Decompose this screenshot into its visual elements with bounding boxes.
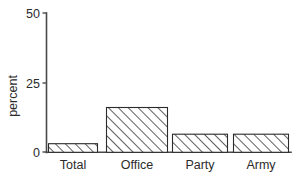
y-tick-label-25: 25: [26, 77, 40, 91]
bar-army: [234, 134, 289, 152]
x-tick-label-office: Office: [121, 158, 153, 172]
chart-canvas: 50 25 0 percent Total Office Party Army: [0, 0, 294, 181]
y-tick-label-0: 0: [33, 146, 40, 160]
y-tick-label-50: 50: [26, 7, 40, 21]
x-tick-label-army: Army: [246, 158, 276, 172]
bar-total: [49, 144, 98, 153]
bar-chart: 50 25 0 percent Total Office Party Army: [0, 0, 294, 181]
bar-party: [173, 134, 228, 152]
x-tick-label-party: Party: [185, 158, 215, 172]
bar-office: [107, 108, 168, 153]
x-tick-label-total: Total: [60, 158, 86, 172]
chart-background: [0, 0, 294, 181]
y-axis-title: percent: [6, 75, 20, 117]
